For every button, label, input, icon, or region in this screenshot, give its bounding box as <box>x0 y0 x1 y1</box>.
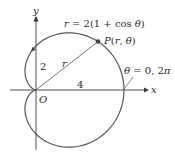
x-axis-label: x <box>151 84 157 95</box>
start-leader-line <box>124 77 133 89</box>
y-axis-label: y <box>32 5 39 16</box>
point-label: P(r, θ) <box>103 35 136 46</box>
y-intercept-label: 2 <box>40 61 46 72</box>
equation-label: r = 2(1 + cos θ) <box>64 18 145 29</box>
origin-label: O <box>39 94 47 105</box>
cardioid-diagram: y x O r = 2(1 + cos θ) P(r, θ) r 2 4 θ =… <box>0 0 175 160</box>
radius-label: r <box>62 58 68 69</box>
start-angle-label: θ = 0, 2π <box>124 65 171 76</box>
x-intercept-label: 4 <box>77 79 83 90</box>
point-p-marker <box>96 39 101 44</box>
